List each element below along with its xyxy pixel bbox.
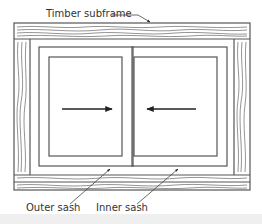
wood-grain-left (17, 42, 26, 172)
inner-sash-frame (132, 47, 227, 166)
wood-grain-right (237, 42, 246, 172)
wood-grain-top (17, 26, 247, 36)
bottom-margin (0, 214, 262, 224)
timber-subframe-label: Timber subframe (45, 8, 132, 19)
inner-sash-leader (137, 169, 178, 204)
diagram-canvas: Timber subframe Outer sash Inner sash (0, 0, 262, 224)
outer-sash-label: Outer sash (26, 202, 80, 213)
outer-sash-frame (39, 47, 133, 166)
window-diagram: Timber subframe Outer sash Inner sash (0, 0, 262, 224)
outer-sash-leader (70, 169, 110, 204)
inner-sash-label: Inner sash (96, 202, 148, 213)
wood-grain-bottom (17, 177, 247, 188)
